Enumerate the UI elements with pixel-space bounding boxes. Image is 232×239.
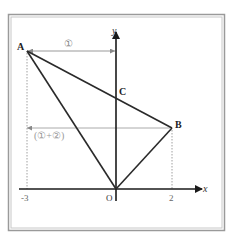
annotation-1-plus-2: (①+②) bbox=[34, 130, 64, 142]
segment-a-b bbox=[27, 51, 172, 128]
point-c-label: C bbox=[119, 86, 126, 97]
point-b-label: B bbox=[175, 119, 182, 130]
x-axis-label: x bbox=[202, 183, 208, 194]
tick-label-neg3: -3 bbox=[21, 193, 29, 203]
annotation-1: ① bbox=[64, 38, 73, 49]
segment-o-b bbox=[116, 128, 172, 189]
point-a-label: A bbox=[17, 41, 25, 52]
segment-a-o bbox=[27, 51, 116, 189]
tick-label-2: 2 bbox=[169, 193, 174, 203]
origin-label: O bbox=[106, 193, 113, 203]
y-axis-label: y bbox=[111, 25, 117, 36]
coordinate-diagram: A B C y x O -3 2 ① (①+②) bbox=[0, 0, 232, 239]
